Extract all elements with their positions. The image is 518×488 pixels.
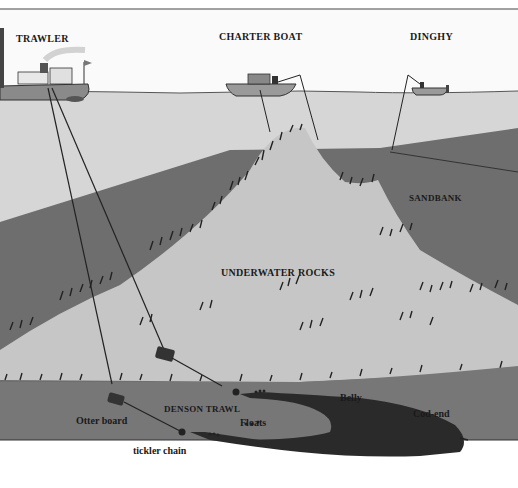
label-floats: Floats [240, 418, 266, 428]
label-tickler-chain: tickler chain [133, 446, 186, 456]
label-dinghy: DINGHY [410, 32, 453, 42]
label-otter-board: Otter board [76, 416, 127, 426]
label-charter-boat: CHARTER BOAT [219, 32, 302, 42]
label-trawler: TRAWLER [16, 34, 69, 44]
label-belly: Belly [340, 393, 362, 403]
label-denson-trawl: DENSON TRAWL [164, 405, 240, 414]
fishing-diagram: TRAWLER CHARTER BOAT DINGHY SANDBANK UND… [0, 0, 518, 488]
bobbin [233, 389, 240, 396]
label-underwater-rocks: UNDERWATER ROCKS [221, 268, 335, 278]
label-cod-end: Cod-end [413, 409, 450, 419]
bobbin [179, 429, 186, 436]
label-sandbank: SANDBANK [409, 194, 462, 203]
